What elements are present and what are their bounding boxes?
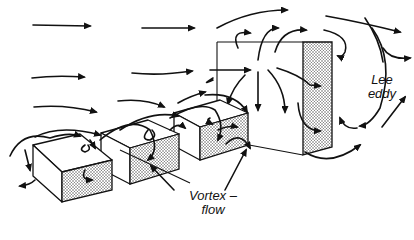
wind-arrow (34, 106, 96, 112)
lee-eddy-label: Lee eddy (360, 73, 404, 101)
wind-arrow (118, 100, 164, 107)
wind-arrow (178, 92, 205, 103)
low-building-2 (101, 120, 179, 184)
lee-eddy-label-line2: eddy (360, 87, 404, 101)
tall-building-lee-face (303, 42, 332, 155)
vortex-flow-label-line2: flow (178, 203, 248, 217)
vortex-flow-label: Vortex – flow (178, 189, 248, 217)
wind-arrow (33, 25, 90, 26)
wind-arrows (32, 25, 205, 112)
low-building-3 (174, 100, 248, 160)
wind-arrow (132, 71, 192, 74)
low-buildings (33, 100, 248, 202)
lee-eddy-label-line1: Lee (360, 73, 404, 87)
low-building-1 (33, 134, 112, 202)
vortex-flow-label-line1: Vortex – (178, 189, 248, 203)
wind-arrow (32, 76, 84, 78)
